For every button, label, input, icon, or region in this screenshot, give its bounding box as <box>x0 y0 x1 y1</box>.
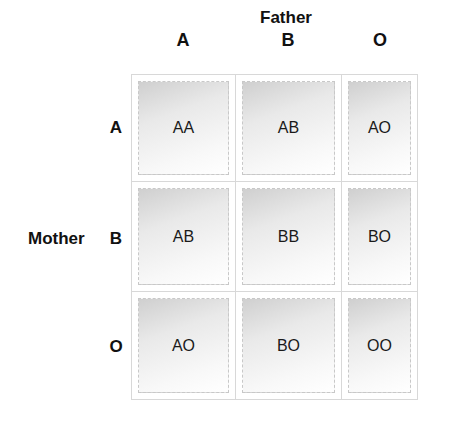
genotype-box: OO <box>348 298 411 393</box>
genotype-box: BB <box>242 188 335 285</box>
cell: AO <box>342 75 417 182</box>
cell: BO <box>236 292 342 399</box>
genotype-box: AA <box>138 81 229 175</box>
cell: OO <box>342 292 417 399</box>
genotype-box: AB <box>138 188 229 285</box>
mother-label: Mother <box>28 229 85 249</box>
genotype-box: AO <box>138 298 229 393</box>
cell: BB <box>236 182 342 292</box>
genotype-box: BO <box>348 188 411 285</box>
genotype-box: AO <box>348 81 411 175</box>
cell: AO <box>132 292 236 399</box>
column-label-b: B <box>238 30 338 51</box>
genotype-box: AB <box>242 81 335 175</box>
column-label-o: O <box>330 30 430 51</box>
row-label-b: B <box>106 229 126 249</box>
row-label-a: A <box>106 118 126 138</box>
cell: AA <box>132 75 236 182</box>
column-label-a: A <box>133 30 233 51</box>
genotype-box: BO <box>242 298 335 393</box>
father-label: Father <box>226 8 346 28</box>
cell: AB <box>132 182 236 292</box>
cell: BO <box>342 182 417 292</box>
punnett-square: AA AB AO AB BB BO AO BO OO <box>131 74 418 400</box>
row-label-o: O <box>106 337 126 357</box>
cell: AB <box>236 75 342 182</box>
